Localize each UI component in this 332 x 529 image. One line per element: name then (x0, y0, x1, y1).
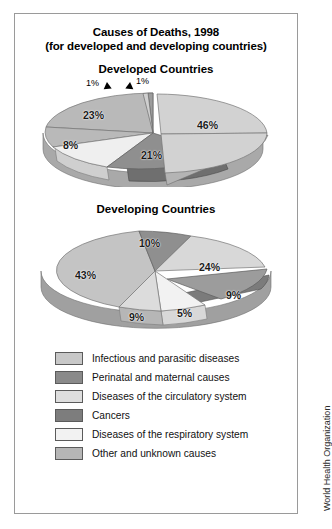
legend-label-respiratory: Diseases of the respiratory system (92, 429, 248, 440)
legend-label-perinatal: Perinatal and maternal causes (92, 372, 230, 383)
chart-title-developed: Developed Countries (15, 63, 297, 75)
source-credit-text: World Health Organization (322, 406, 332, 511)
legend-label-circulatory: Diseases of the circulatory system (92, 391, 247, 402)
legend-item-other: Other and unknown causes (55, 444, 297, 463)
figure-frame: Causes of Deaths, 1998 (for developed an… (14, 13, 298, 514)
pie2-label-perinatal: 10% (139, 237, 160, 249)
pie-chart-developed: 1% 1% (15, 75, 297, 187)
pie1-label-infectious-1pct: 1% (86, 78, 99, 88)
legend-swatch-circulatory (55, 390, 83, 403)
legend-label-other: Other and unknown causes (92, 448, 216, 459)
chart-legend: Infectious and parasitic diseases Perina… (15, 349, 297, 463)
legend-item-perinatal: Perinatal and maternal causes (55, 368, 297, 387)
legend-swatch-infectious (55, 352, 83, 365)
legend-item-cancers: Cancers (55, 406, 297, 425)
legend-label-infectious: Infectious and parasitic diseases (92, 353, 239, 364)
legend-item-infectious: Infectious and parasitic diseases (55, 349, 297, 368)
pie2-label-respiratory: 5% (177, 307, 192, 319)
pie-chart-developing: 10% 24% 9% 5% 9% 43% (15, 219, 297, 337)
legend-item-circulatory: Diseases of the circulatory system (55, 387, 297, 406)
pie2-label-infectious: 43% (75, 269, 96, 281)
figure-title-line-1: Causes of Deaths, 1998 (15, 26, 297, 38)
pie2-label-other: 9% (129, 311, 144, 323)
pie1-label-respiratory: 8% (63, 139, 78, 151)
pie1-label-circulatory: 46% (197, 119, 218, 131)
pie1-graphic (15, 75, 297, 187)
legend-item-respiratory: Diseases of the respiratory system (55, 425, 297, 444)
legend-swatch-perinatal (55, 371, 83, 384)
legend-swatch-cancers (55, 409, 83, 422)
chart-title-developing: Developing Countries (15, 203, 297, 215)
legend-swatch-other (55, 447, 83, 460)
pie1-label-other: 23% (83, 109, 104, 121)
pie1-label-perinatal-1pct: 1% (136, 76, 149, 86)
pie2-label-cancers: 9% (226, 289, 241, 301)
pie1-label-cancers: 21% (141, 149, 162, 161)
pie2-label-circulatory: 24% (199, 261, 220, 273)
legend-label-cancers: Cancers (92, 410, 130, 421)
source-credit: World Health Organization (311, 321, 325, 521)
figure-title-line-2: (for developed and developing countries) (15, 40, 297, 52)
legend-swatch-respiratory (55, 428, 83, 441)
